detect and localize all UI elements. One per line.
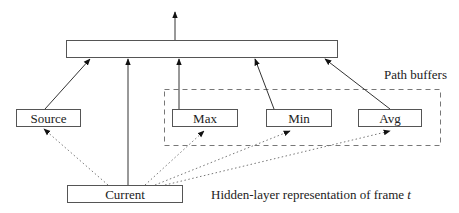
min-label: Min	[288, 111, 310, 126]
hidden-layer-annotation: Hidden-layer representation of frame t	[211, 187, 411, 202]
source-node: Source	[17, 110, 81, 127]
combiner-box	[67, 41, 338, 58]
source-label: Source	[30, 111, 66, 126]
edge-current-to-source	[44, 129, 108, 185]
max-label: Max	[193, 111, 217, 126]
annotation-text: Hidden-layer representation of frame	[211, 187, 407, 202]
avg-node: Avg	[359, 110, 422, 127]
edge-min-to-combiner	[255, 59, 274, 109]
min-node: Min	[267, 110, 332, 127]
edge-avg-to-combiner	[325, 59, 390, 109]
annotation-variable: t	[407, 187, 411, 202]
edge-current-to-avg	[165, 131, 390, 185]
edge-current-to-min	[155, 131, 290, 185]
diagram-canvas: Path buffers Source Max Min Avg Current …	[0, 0, 459, 213]
path-buffers-label: Path buffers	[384, 67, 447, 82]
max-node: Max	[173, 110, 238, 127]
current-node: Current	[68, 186, 183, 203]
avg-label: Avg	[379, 111, 401, 126]
current-label: Current	[105, 187, 145, 202]
edge-source-to-combiner	[45, 59, 90, 109]
